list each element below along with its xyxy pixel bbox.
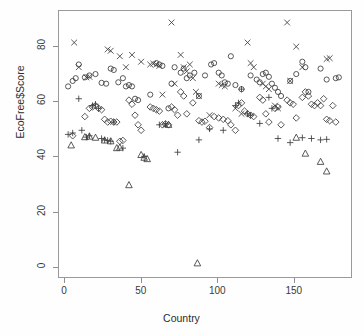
data-point-circle [254, 77, 259, 82]
data-point-plus [238, 86, 244, 92]
data-point-diamond [180, 93, 187, 100]
data-point-diamond [132, 112, 139, 119]
data-point-plus [266, 94, 272, 100]
data-point-circle [248, 73, 253, 78]
data-point-plus [247, 112, 253, 118]
data-point-circle [76, 62, 81, 67]
data-point-diamond [126, 97, 133, 104]
data-point-circle [233, 82, 238, 87]
data-point-cross [299, 64, 305, 70]
data-point-circle [300, 59, 305, 64]
data-point-triangle [68, 142, 75, 148]
data-point-cross [293, 44, 299, 50]
data-point-circle [266, 74, 271, 79]
data-point-plus [323, 136, 329, 142]
data-point-cross [193, 89, 199, 95]
data-point-plus [308, 135, 314, 141]
data-point-triangle [302, 150, 309, 156]
data-point-diamond [293, 115, 300, 122]
data-point-cross [266, 86, 272, 92]
data-point-cross [71, 40, 77, 46]
data-point-circle [294, 71, 299, 76]
data-point-plus [317, 137, 323, 143]
data-point-diamond [232, 127, 239, 134]
data-point-circle [126, 82, 131, 87]
data-point-diamond [299, 94, 306, 101]
data-point-cross [245, 40, 251, 46]
data-point-circle [278, 93, 283, 98]
data-point-diamond [190, 100, 197, 107]
data-point-plus [287, 139, 293, 145]
data-point-diamond [278, 122, 285, 129]
data-point-plus [299, 135, 305, 141]
data-point-diamond [135, 122, 142, 129]
data-point-diamond [174, 112, 181, 119]
data-point-plus [79, 127, 85, 133]
scatter-plot-figure: EcoFree$Score Country 020406080050100150 [0, 0, 363, 336]
data-point-triangle [194, 260, 201, 266]
data-point-plus [76, 96, 82, 102]
data-point-diamond [183, 111, 190, 118]
x-tick-label: 50 [126, 285, 156, 296]
data-point-triangle [126, 182, 133, 188]
data-point-cross [196, 93, 202, 99]
data-point-circle [93, 71, 98, 76]
series-circle [66, 54, 342, 111]
data-point-cross [251, 64, 257, 70]
data-point-triangle [323, 168, 330, 174]
y-axis-label: EcoFree$Score [14, 54, 26, 150]
data-point-circle [228, 54, 233, 59]
data-point-circle [209, 62, 214, 67]
x-tick-mark [217, 278, 218, 283]
y-tick-label: 60 [36, 91, 47, 109]
data-point-cross [160, 92, 166, 98]
data-point-cross [117, 53, 123, 59]
data-point-cross [178, 52, 184, 58]
data-point-diamond [147, 104, 154, 111]
data-point-cross [76, 64, 82, 70]
y-tick-label: 20 [36, 201, 47, 219]
data-point-circle [219, 73, 224, 78]
data-point-plus [174, 149, 180, 155]
x-axis-label: Country [0, 312, 363, 324]
data-point-diamond [228, 122, 235, 129]
series-diamond [69, 89, 339, 145]
data-point-cross [172, 81, 178, 87]
data-point-circle [70, 78, 75, 83]
data-point-cross [284, 20, 290, 26]
y-tick-label: 0 [36, 256, 47, 274]
scatter-markers [59, 11, 351, 277]
data-point-diamond [82, 113, 89, 120]
data-point-circle [336, 75, 341, 80]
data-point-circle [108, 66, 113, 71]
data-point-circle [212, 61, 217, 66]
data-point-circle [123, 84, 128, 89]
data-points-layer [59, 11, 351, 277]
data-point-diamond [156, 108, 163, 115]
data-point-circle [148, 92, 153, 97]
data-point-circle [111, 67, 116, 72]
data-point-diamond [308, 101, 315, 108]
data-point-diamond [150, 105, 157, 112]
data-point-diamond [326, 117, 333, 124]
x-tick-label: 150 [279, 285, 309, 296]
x-tick-mark [64, 278, 65, 283]
data-point-cross [123, 64, 129, 70]
data-point-cross [287, 78, 293, 84]
data-point-circle [172, 65, 177, 70]
data-point-circle [132, 96, 137, 101]
data-point-plus [257, 120, 263, 126]
data-point-plus [220, 127, 226, 133]
data-point-circle [129, 84, 134, 89]
data-point-circle [192, 70, 197, 75]
plot-frame [58, 10, 352, 278]
data-point-circle [216, 70, 221, 75]
data-point-diamond [290, 101, 297, 108]
data-point-cross [187, 62, 193, 68]
data-point-circle [202, 73, 207, 78]
data-point-circle [120, 76, 125, 81]
data-point-diamond [266, 119, 273, 126]
data-point-diamond [333, 119, 340, 126]
data-point-cross [129, 52, 135, 58]
data-point-plus [196, 137, 202, 143]
